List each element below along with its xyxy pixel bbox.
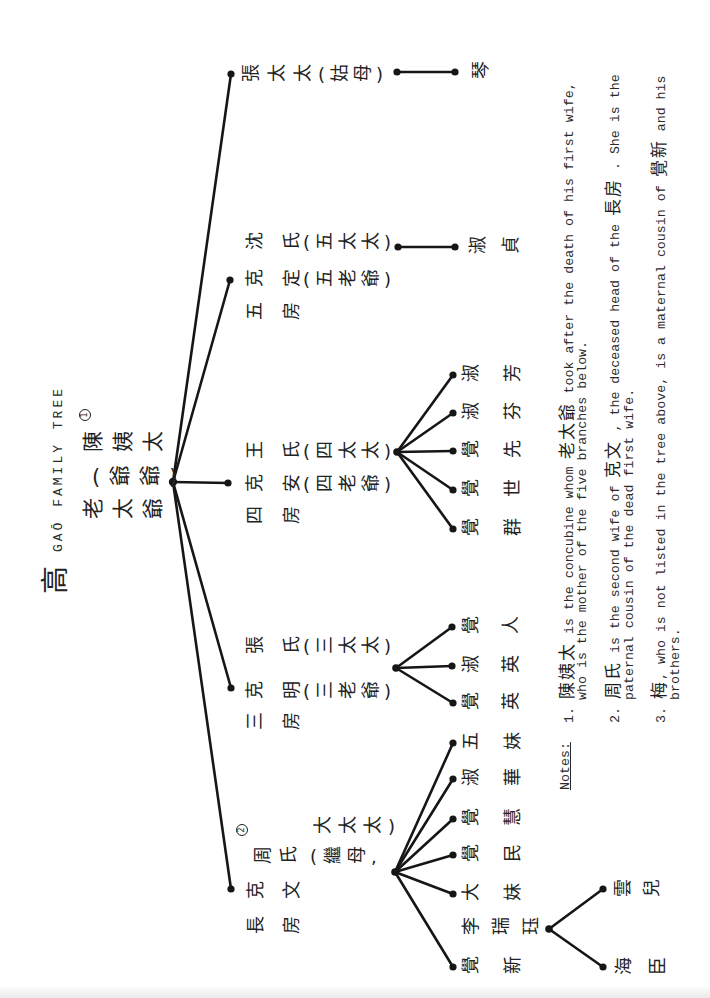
child-name: 淑華 [461, 768, 545, 790]
child-name: 琴 [471, 61, 489, 83]
child-name: 覺世 [461, 479, 545, 501]
grandchild-name: 海臣 [614, 957, 682, 979]
third-branch-label: 三房 [245, 712, 319, 734]
fourth-child-line [397, 452, 453, 529]
child-name: 淑英 [461, 655, 541, 677]
note-text: . She is the [608, 74, 623, 178]
third-child-line [396, 627, 452, 668]
child-name: 覺民 [461, 844, 545, 866]
eldest-husband-name: 克文 [246, 881, 318, 903]
note-2-line-2: paternal cousin of the dead first wife. [622, 389, 638, 700]
note-hanzi: 陳姨太 [557, 642, 577, 699]
note-text: who is the mother of the five branches b… [575, 341, 590, 700]
daughter-child-dot [451, 68, 458, 75]
fourth-husband-title: (四老爺) [303, 474, 396, 496]
eldest-child-dot [449, 851, 456, 858]
branch-line-third [173, 482, 231, 688]
eldest-wife-title: (繼母, [310, 846, 383, 868]
fifth-child-dot [451, 243, 458, 250]
fifth-husband-title: (五老爺) [303, 269, 396, 291]
note-text: is the second wife of [608, 478, 623, 662]
fourth-child-dot [449, 447, 456, 454]
fourth-wife-title: (四太太) [303, 441, 396, 463]
daughter-node-dot [227, 70, 234, 77]
note-marker-2: 2 [236, 824, 248, 836]
child-name: 淑芬 [461, 402, 545, 424]
family-tree-document: 高 GAŌ FAMILY TREE 陳姨太 1 (爺爺) 老太爺 張太太 (姑母… [0, 0, 710, 998]
fourth-child-line [397, 375, 453, 452]
fourth-child-dot [449, 525, 456, 532]
child-name: 覺新 [461, 956, 545, 978]
grandchild-name: 雲兒 [613, 879, 671, 901]
note-hanzi: 長房 [603, 178, 623, 216]
third-husband-title: (三老爺) [303, 681, 396, 703]
branch-line-fifth [173, 280, 230, 482]
note-3-line-1: 3.梅, who is not listed in the tree above… [651, 75, 670, 723]
child-name: 淑貞 [468, 236, 534, 258]
note-hanzi: 老太爺 [557, 402, 577, 459]
fifth-wife-title: (五太太) [303, 232, 396, 254]
spouse-name: 李瑞珏 [461, 917, 551, 939]
eldest-hub-dot [391, 868, 399, 876]
note-marker-1: 1 [79, 409, 91, 421]
child-name: 覺群 [461, 518, 545, 540]
eldest-child-dot [449, 963, 456, 970]
eldest-child-dot [449, 890, 456, 897]
child-name: 五妹 [461, 732, 545, 754]
grandchild-dot [599, 885, 606, 892]
child-name: 覺慧 [461, 808, 545, 830]
child-name: 大妹 [461, 883, 545, 905]
fourth-child-dot [449, 409, 456, 416]
note-hanzi: 覺新 [649, 139, 669, 177]
eldest-branch-dot [227, 885, 234, 892]
root-name: 老太爺 [82, 498, 172, 522]
child-name: 覺英 [461, 692, 541, 714]
fourth-child-dot [449, 371, 456, 378]
fourth-child-line [397, 452, 453, 490]
fifth-branch-dot [226, 276, 233, 283]
note-hanzi: 克文 [603, 440, 623, 478]
third-child-dot [448, 623, 455, 630]
branch-line-eldest [173, 482, 231, 889]
fourth-branch-dot [224, 479, 231, 486]
child-name: 淑芳 [461, 364, 545, 386]
note-text: brothers. [668, 628, 683, 700]
fourth-child-line [397, 413, 453, 452]
note-text: , the deceased head of the [608, 216, 623, 439]
eldest-child-dot [449, 815, 456, 822]
notes-heading: Notes: [558, 742, 574, 790]
note-number: 1. [562, 707, 577, 723]
daughter-name: 張太太 [241, 64, 319, 86]
branch-line-daughter [173, 74, 231, 482]
child-name: 覺先 [461, 440, 545, 462]
grandchild-line [549, 929, 603, 967]
daughter-title: (姑母) [318, 64, 388, 86]
note-3-line-2: brothers. [668, 628, 684, 700]
third-child-line [396, 666, 452, 668]
note-text: and his [654, 75, 669, 139]
note-text: , who is not listed in the tree above, i… [654, 177, 669, 680]
fourth-child-line [397, 451, 453, 452]
eldest-child-dot [449, 775, 456, 782]
root-concubine: 陳姨太 [82, 431, 172, 455]
eldest-wife-name: 周氏 [253, 846, 305, 868]
root-alias: (爺爺) [92, 465, 186, 489]
third-child-dot [449, 699, 456, 706]
third-branch-dot [227, 684, 234, 691]
fifth-branch-label: 五房 [245, 302, 319, 324]
note-text: paternal cousin of the dead first wife. [622, 389, 637, 700]
grandchild-line [549, 889, 603, 929]
fourth-child-dot [449, 486, 456, 493]
daughter-hub-dot [393, 68, 400, 75]
title-hanzi: 高 [40, 568, 68, 598]
note-1-line-2: who is the mother of the five branches b… [575, 341, 591, 700]
child-name: 覺人 [461, 616, 541, 638]
third-hub-dot [392, 664, 400, 672]
note-number: 2. [608, 707, 623, 723]
scan-edge [0, 987, 710, 998]
grandchild-dot [599, 963, 606, 970]
eldest-child-dot [449, 739, 456, 746]
scanned-page: 高 GAŌ FAMILY TREE 陳姨太 1 (爺爺) 老太爺 張太太 (姑母… [0, 0, 710, 998]
third-child-dot [448, 662, 455, 669]
note-hanzi: 梅 [649, 680, 669, 699]
